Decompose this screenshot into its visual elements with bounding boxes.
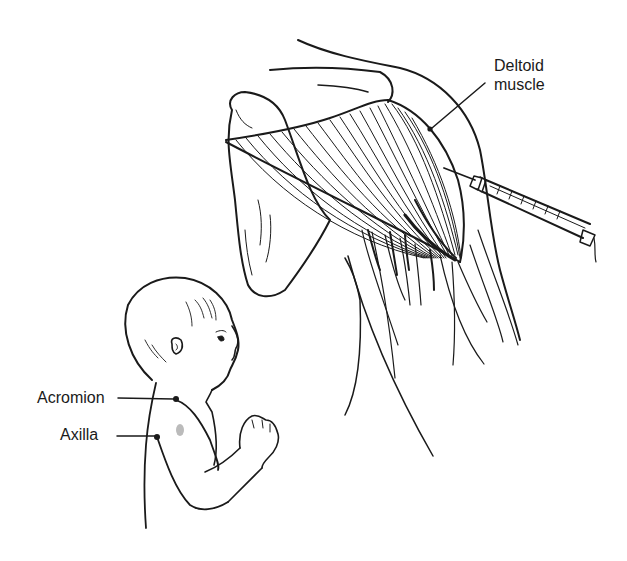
deltoid-leader-line — [427, 83, 485, 132]
syringe-icon — [444, 168, 596, 262]
infant-illustration — [125, 277, 278, 528]
deltoid-muscle-label: Deltoid muscle — [494, 56, 545, 94]
deltoid-label-line1: Deltoid — [494, 56, 545, 75]
deltoid-label-line2: muscle — [494, 75, 545, 94]
axilla-leader-line — [117, 434, 160, 440]
axilla-label: Axilla — [60, 425, 98, 444]
shoulder-muscle-illustration — [226, 40, 520, 456]
acromion-label: Acromion — [37, 388, 105, 407]
acromion-leader-line — [118, 396, 179, 402]
